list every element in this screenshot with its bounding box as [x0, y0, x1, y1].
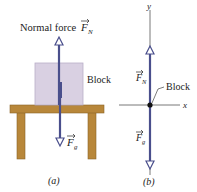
table-leg-left [17, 112, 25, 159]
normal-subscript: N [141, 78, 147, 85]
panel-b: y x Block F N F g (b) [119, 1, 190, 188]
normal-force-arrowhead-icon [55, 37, 63, 45]
caption-b: (b) [143, 176, 155, 188]
panel-a: Normal force F N Block F g (a) [10, 19, 111, 187]
gravity-subscript: g [142, 138, 146, 145]
block-point [147, 102, 152, 107]
normal-force-label: Normal force [20, 22, 77, 33]
gravity-arrowhead-icon [56, 138, 64, 146]
x-axis-label: x [182, 100, 187, 110]
table-top [10, 105, 104, 113]
block-label: Block [166, 81, 190, 92]
gravity-subscript: g [74, 143, 78, 151]
table-leg-right [88, 112, 96, 159]
block-label: Block [87, 74, 111, 85]
normal-force-subscript: N [87, 28, 93, 36]
y-axis-label: y [146, 1, 151, 11]
free-body-diagram: Normal force F N Block F g (a) y x Block… [0, 0, 197, 192]
normal-force-arrowhead-icon [146, 46, 154, 54]
caption-a: (a) [48, 175, 60, 187]
block-leader-line [152, 87, 164, 103]
gravity-arrowhead-icon [146, 161, 154, 169]
